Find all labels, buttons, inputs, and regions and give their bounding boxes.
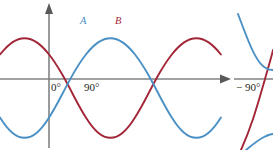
plot-canvas [0, 0, 273, 150]
x-axis-arrowhead [220, 75, 231, 84]
curve-label-b: B [115, 16, 121, 27]
curve-a-sine-blue [0, 38, 221, 138]
y-axis-arrowhead [45, 3, 53, 14]
curve-b-sine-red [0, 38, 221, 138]
x-tick-label-0deg: 0° [51, 82, 61, 93]
secondary-curve-a-blue-upper [238, 14, 273, 70]
trigonometric-graph-figure: 0° 90° − 90° A B [0, 0, 273, 150]
x-tick-label-minus-90deg: − 90° [236, 82, 260, 93]
x-tick-label-90deg: 90° [84, 82, 99, 93]
curve-label-a: A [80, 16, 86, 27]
secondary-curve-a-blue-lower [246, 134, 273, 150]
